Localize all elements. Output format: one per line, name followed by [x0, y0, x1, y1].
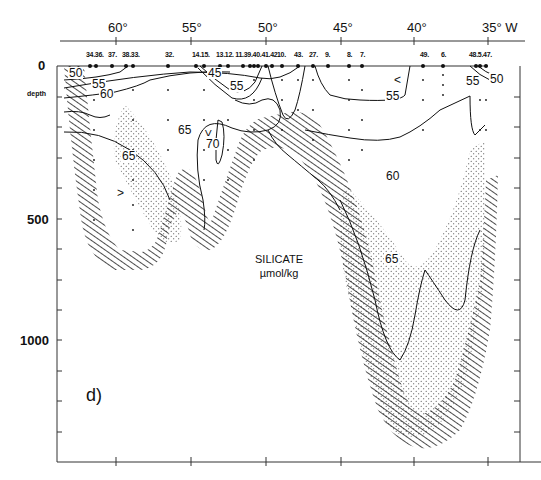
- station-label: 13.12. 11.39.40.41.42.: [216, 51, 279, 58]
- contour-label-55c: 55: [385, 90, 400, 102]
- station-label: 14.15.: [192, 51, 210, 58]
- depth-label-500: 500: [27, 212, 49, 227]
- station-label: 43.: [294, 51, 303, 58]
- contour-label-45: 45: [207, 67, 222, 79]
- station-label: 10.: [277, 51, 286, 58]
- station-label: 7.: [360, 51, 365, 58]
- station-label: 9.: [325, 51, 330, 58]
- chart-title: SILICATE µmol/kg: [255, 252, 303, 280]
- station-label: 32.: [165, 51, 174, 58]
- lon-label-50: 50°: [258, 20, 278, 35]
- contour-label-55b: 55: [229, 80, 244, 92]
- station-label: 37.: [108, 51, 117, 58]
- contour-label-55d: 55: [465, 75, 480, 87]
- contour-label-65: 65: [121, 150, 136, 162]
- lon-label-55: 55°: [182, 20, 202, 35]
- chart-title-text: SILICATE: [255, 252, 303, 266]
- minimum-marker: <: [393, 74, 402, 86]
- contour-label-65c: 65: [384, 253, 399, 265]
- maximum-marker: >: [116, 187, 125, 199]
- station-label: 49.: [420, 51, 429, 58]
- depth-label-0: 0: [38, 58, 45, 73]
- station-label: 27.: [309, 51, 318, 58]
- depth-label-1000: 1000: [20, 333, 49, 348]
- chart-units: µmol/kg: [255, 266, 303, 280]
- station-label: 6.: [441, 51, 446, 58]
- lon-label-40: 40°: [407, 20, 427, 35]
- lon-label-35w: 35° W: [482, 20, 518, 35]
- station-label: 48.5.47.: [469, 51, 492, 58]
- station-label: 38.33.: [122, 51, 140, 58]
- maximum-marker: >: [202, 128, 214, 137]
- station-label: 8.: [347, 51, 352, 58]
- lon-label-45: 45°: [333, 20, 353, 35]
- contour-label-50: 50: [68, 67, 83, 79]
- contour-label-60: 60: [99, 88, 114, 100]
- lon-label-60: 60°: [108, 20, 128, 35]
- contour-label-60b: 60: [385, 170, 400, 182]
- depth-axis-title: depth: [27, 90, 46, 97]
- panel-label: d): [86, 385, 102, 406]
- contour-label-65b: 65: [177, 124, 192, 136]
- station-label: 34.36.: [86, 51, 104, 58]
- contour-label-70: 70: [205, 138, 220, 150]
- top-axis: [60, 37, 525, 45]
- contour-label-50b: 50: [489, 73, 504, 85]
